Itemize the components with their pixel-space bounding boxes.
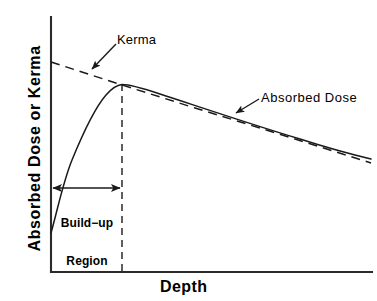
y-axis-title: Absorbed Dose or Kerma (27, 28, 44, 268)
buildup-region-label-line2: Region (55, 255, 119, 268)
absorbed-dose-leader-arrow (236, 99, 259, 113)
kerma-curve (51, 62, 371, 163)
kerma-leader-arrow (92, 44, 116, 69)
x-axis-title: Depth (160, 279, 207, 296)
absorbed-dose-annotation-label: Absorbed Dose (261, 91, 357, 105)
depth-dose-kerma-figure: Absorbed Dose or Kerma Depth Kerma Absor… (0, 0, 377, 301)
buildup-region-annotation-label: Build−up Region (55, 192, 119, 293)
buildup-region-label-line1: Build−up (55, 217, 119, 230)
kerma-annotation-label: Kerma (117, 33, 156, 47)
